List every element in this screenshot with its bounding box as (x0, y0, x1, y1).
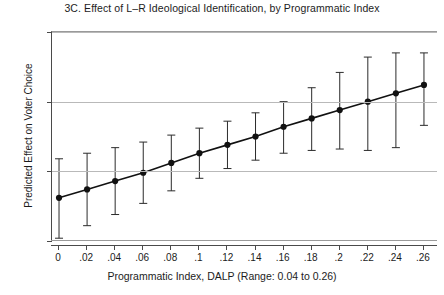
plot-bottom-rule (51, 240, 437, 241)
data-point (84, 186, 90, 192)
x-tick-label: .14 (248, 252, 262, 263)
x-tick-label: .12 (220, 252, 234, 263)
data-point (224, 142, 230, 148)
x-axis-line (51, 245, 437, 246)
x-tick-label: .22 (360, 252, 374, 263)
x-tick-label: .24 (388, 252, 402, 263)
x-tick-mark (367, 245, 368, 250)
data-point (196, 150, 202, 156)
x-axis-label: Programmatic Index, DALP (Range: 0.04 to… (0, 270, 444, 282)
x-tick-label: .18 (304, 252, 318, 263)
data-point (112, 178, 118, 184)
data-point (281, 124, 287, 130)
x-tick-mark (58, 245, 59, 250)
x-tick-mark (255, 245, 256, 250)
x-tick-mark (395, 245, 396, 250)
chart-figure: 3C. Effect of L–R Ideological Identifica… (0, 0, 444, 295)
data-point (56, 195, 62, 201)
x-tick-label: .04 (107, 252, 121, 263)
x-tick-mark (198, 245, 199, 250)
x-tick-mark (142, 245, 143, 250)
y-tick-mark (47, 171, 52, 172)
gridline-y (52, 171, 437, 172)
data-point (393, 90, 399, 96)
y-tick-mark (47, 32, 52, 33)
x-tick-mark (311, 245, 312, 250)
x-tick-mark (226, 245, 227, 250)
x-tick-mark (86, 245, 87, 250)
data-point (337, 107, 343, 113)
y-tick-mark (47, 241, 52, 242)
data-series-layer (52, 32, 438, 241)
x-tick-label: .08 (163, 252, 177, 263)
x-tick-label: .06 (135, 252, 149, 263)
data-point (168, 160, 174, 166)
x-tick-label: .1 (194, 252, 202, 263)
gridline-y (52, 102, 437, 103)
data-point (309, 115, 315, 121)
data-point (252, 133, 258, 139)
chart-title: 3C. Effect of L–R Ideological Identifica… (0, 2, 444, 14)
data-point (421, 82, 427, 88)
x-tick-label: .02 (79, 252, 93, 263)
x-tick-label: .2 (335, 252, 343, 263)
x-tick-mark (170, 245, 171, 250)
y-axis-label: Predicted Effect on Voter Choice (23, 31, 34, 241)
x-tick-mark (339, 245, 340, 250)
y-tick-mark (47, 102, 52, 103)
x-tick-label: .26 (416, 252, 430, 263)
plot-area (51, 31, 437, 240)
x-tick-mark (423, 245, 424, 250)
gridline-y (52, 32, 437, 33)
x-tick-label: .16 (276, 252, 290, 263)
x-tick-mark (114, 245, 115, 250)
x-tick-mark (283, 245, 284, 250)
x-tick-label: 0 (55, 252, 61, 263)
